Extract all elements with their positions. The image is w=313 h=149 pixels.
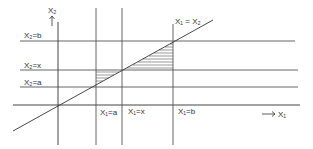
label-x1-a: X₁=a (100, 108, 118, 117)
x2-axis-label: X₂ (48, 6, 56, 15)
label-x2-x: X₂=x (24, 61, 41, 70)
label-x2-b: X₂=b (24, 31, 42, 40)
x1-axis-arrow-icon (262, 112, 275, 117)
integration-region-diagram: X₂ X₁ X₁ = X₂ X₂=b X₂=x X₂=a X₁=a X₁=x X… (0, 0, 313, 149)
label-x1-x: X₁=x (128, 107, 145, 116)
x1-axis-label: X₁ (278, 110, 286, 119)
label-x1-b: X₁=b (178, 107, 196, 116)
hatched-region-left (96, 72, 119, 81)
diagonal-label: X₁ = X₂ (175, 17, 201, 26)
label-x2-a: X₂=a (24, 78, 42, 87)
x2-axis-arrow-icon (50, 16, 55, 26)
